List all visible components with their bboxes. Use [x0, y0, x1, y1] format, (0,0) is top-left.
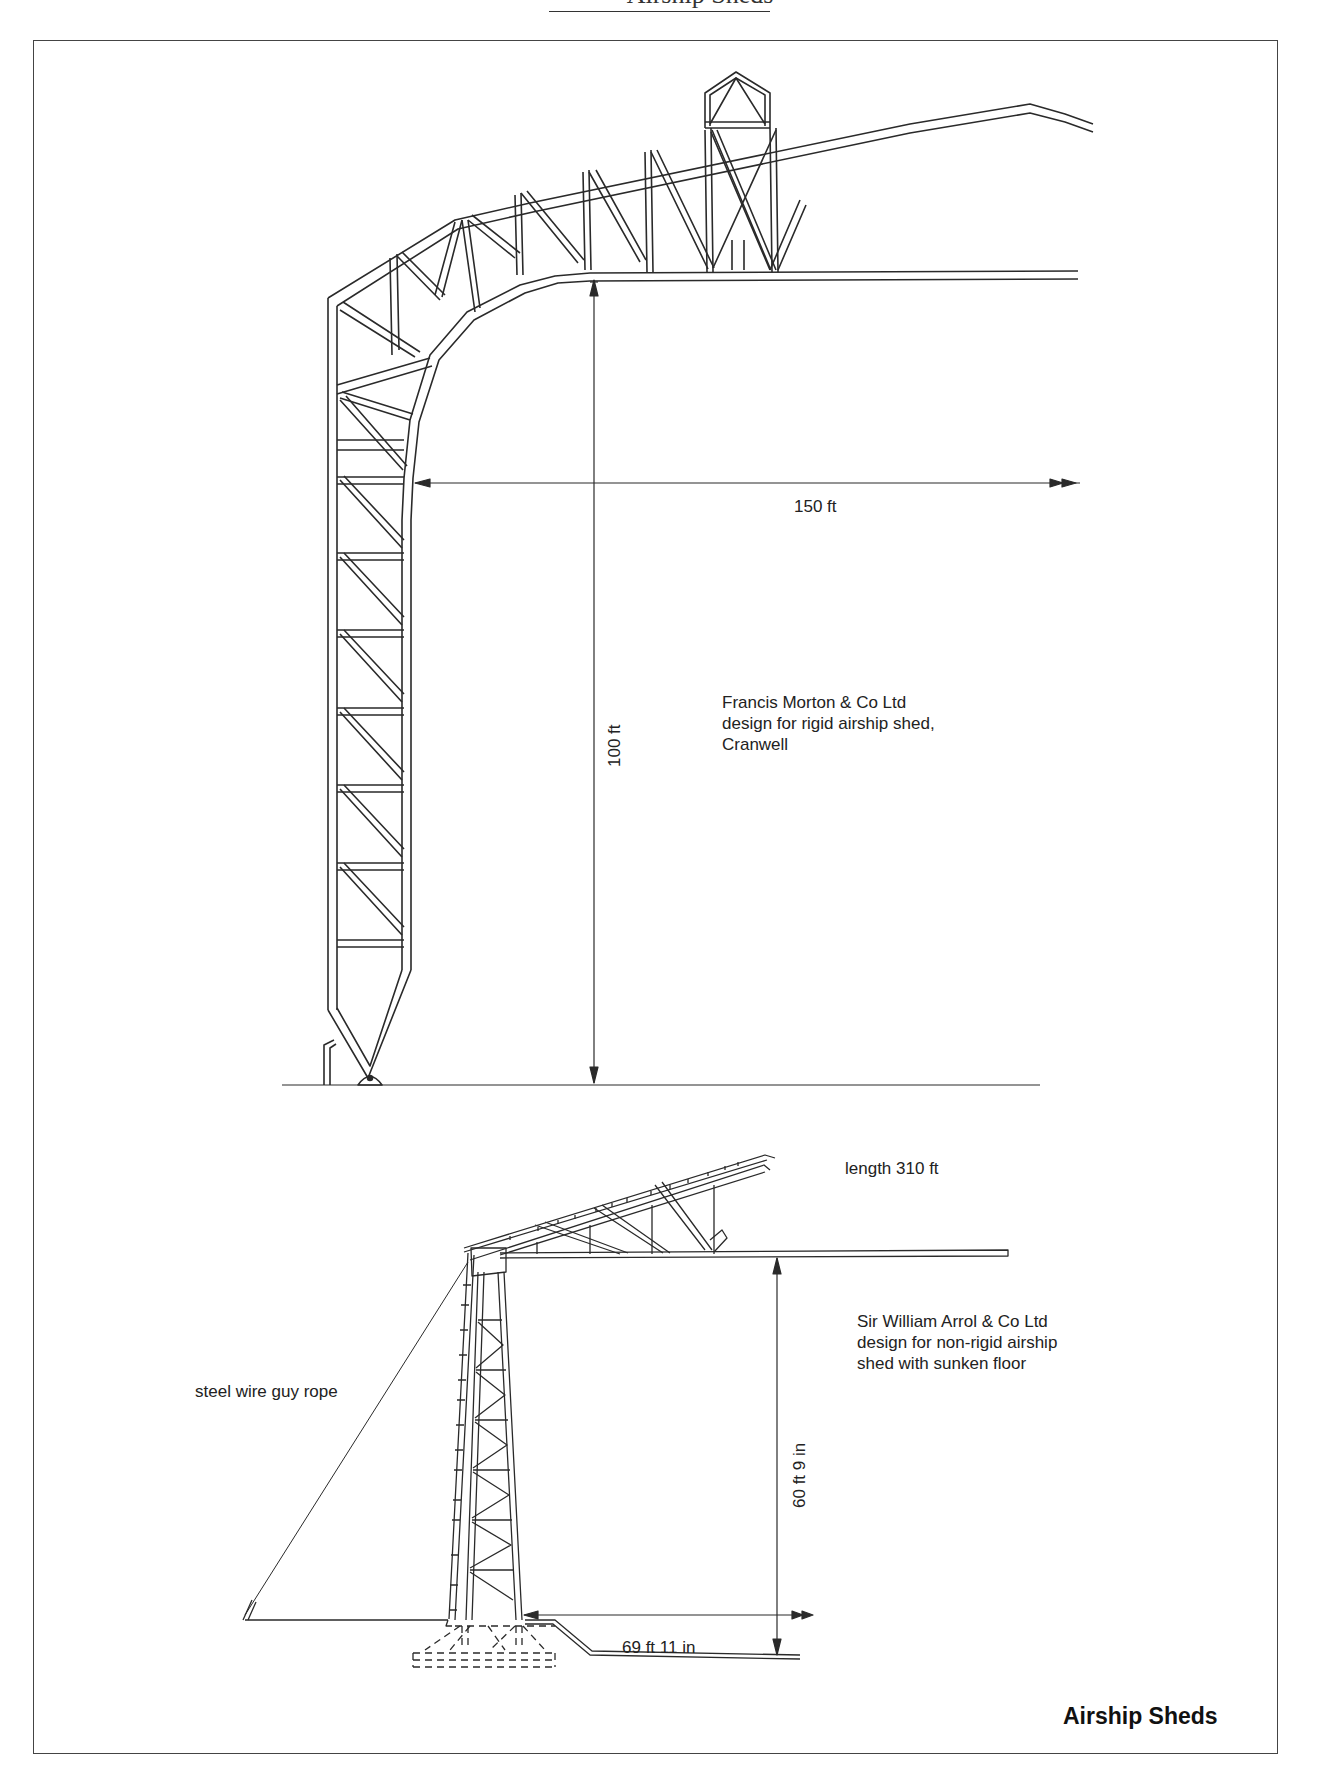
length-note: length 310 ft	[845, 1158, 939, 1179]
bottom-dimension-lines	[524, 1258, 813, 1655]
caption-line: Francis Morton & Co Ltd	[722, 692, 906, 713]
floor-span-label: 69 ft 11 in	[622, 1637, 695, 1658]
caption-line: design for rigid airship shed,	[722, 713, 935, 734]
non-rigid-shed	[243, 1155, 1008, 1667]
tower-height-label: 60 ft 9 in	[790, 1443, 810, 1508]
height-dimension-label: 100 ft	[605, 724, 625, 767]
caption-line: design for non-rigid airship	[857, 1332, 1057, 1353]
rigid-shed-truss	[324, 72, 1093, 1085]
caption-line: shed with sunken floor	[857, 1353, 1026, 1374]
guy-rope-label: steel wire guy rope	[195, 1381, 338, 1402]
caption-line: Sir William Arrol & Co Ltd	[857, 1311, 1048, 1332]
technical-drawing	[0, 0, 1320, 1775]
caption-line: Cranwell	[722, 734, 788, 755]
figure-title: Airship Sheds	[1063, 1703, 1218, 1730]
span-dimension-label: 150 ft	[794, 496, 837, 517]
